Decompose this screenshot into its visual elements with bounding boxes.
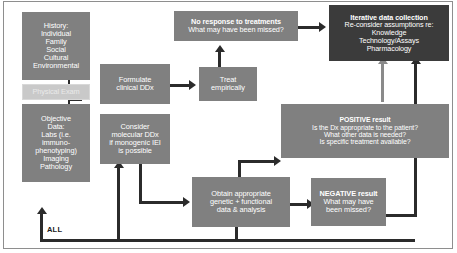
- node-obtain-genetic-data-text: Obtain appropriate genetic + functional …: [210, 190, 272, 214]
- arrowhead-formulate-to-treat: [189, 80, 196, 90]
- node-positive-result[interactable]: POSITIVE result Is the Dx appropriate to…: [281, 104, 449, 158]
- arrowhead-no-response-to-iterative: [319, 22, 326, 32]
- connector-obtain-to-negative: [290, 203, 308, 206]
- node-objective-data[interactable]: Objective Data: Labs (i.e. immuno- pheno…: [22, 104, 90, 182]
- node-positive-result-text: Is the Dx appropriate to the patient? Wh…: [312, 124, 418, 146]
- connector-no-response-to-iterative: [298, 26, 320, 29]
- arrowhead-obtain-to-positive: [274, 156, 281, 166]
- node-history-text: History: Individual Family Social Cultur…: [33, 22, 79, 70]
- node-treat-empirically[interactable]: Treat empirically: [199, 67, 257, 101]
- node-no-response-text: What may have been missed?: [188, 26, 284, 34]
- node-negative-result[interactable]: NEGATIVE result What may have been misse…: [311, 178, 386, 226]
- node-formulate-clinical-ddx[interactable]: Formulate clinical DDx: [100, 64, 170, 104]
- node-obtain-genetic-data[interactable]: Obtain appropriate genetic + functional …: [192, 177, 290, 227]
- connector-formulate-to-treat: [170, 84, 190, 87]
- node-consider-molecular-ddx-text: Consider molecular DDx if monogenic IEI …: [109, 123, 160, 155]
- node-formulate-clinical-ddx-text: Formulate clinical DDx: [116, 76, 153, 92]
- node-positive-result-heading: POSITIVE result: [340, 116, 391, 123]
- connector-bottom-feedback-bus: [40, 239, 415, 242]
- node-no-response[interactable]: No response to treatments What may have …: [174, 11, 298, 41]
- connector-feedback-to-molecular-vertical: [117, 166, 120, 241]
- arrowhead-all-to-objective-data: [37, 207, 47, 214]
- node-iterative-data-collection[interactable]: Iterative data collection Re-consider as…: [329, 5, 449, 61]
- node-negative-result-text: What may have been missed?: [323, 198, 373, 214]
- label-all: ALL: [47, 225, 62, 234]
- node-iterative-data-collection-text: Re-consider assumptions re: Knowledge Te…: [345, 21, 434, 52]
- node-physical-exam[interactable]: Physical Exam: [22, 84, 90, 100]
- node-objective-data-text: Objective Data: Labs (i.e. immuno- pheno…: [35, 115, 77, 170]
- connector-treat-to-no-response: [218, 50, 221, 67]
- node-history[interactable]: History: Individual Family Social Cultur…: [22, 12, 90, 80]
- arrowhead-treat-to-no-response: [215, 45, 225, 52]
- connector-obtain-to-positive-horizontal: [238, 160, 276, 163]
- node-treat-empirically-text: Treat empirically: [211, 76, 245, 92]
- node-consider-molecular-ddx[interactable]: Consider molecular DDx if monogenic IEI …: [100, 114, 170, 164]
- connector-positive-to-iterative: [381, 62, 384, 102]
- arrowhead-molecular-to-obtain: [183, 197, 190, 207]
- connector-all-vertical: [40, 212, 43, 241]
- flowchart-diagram: ALL History: Individual Family Social Cu…: [0, 0, 457, 253]
- node-physical-exam-text: Physical Exam: [32, 88, 79, 96]
- connector-molecular-to-obtain-horizontal: [139, 201, 184, 204]
